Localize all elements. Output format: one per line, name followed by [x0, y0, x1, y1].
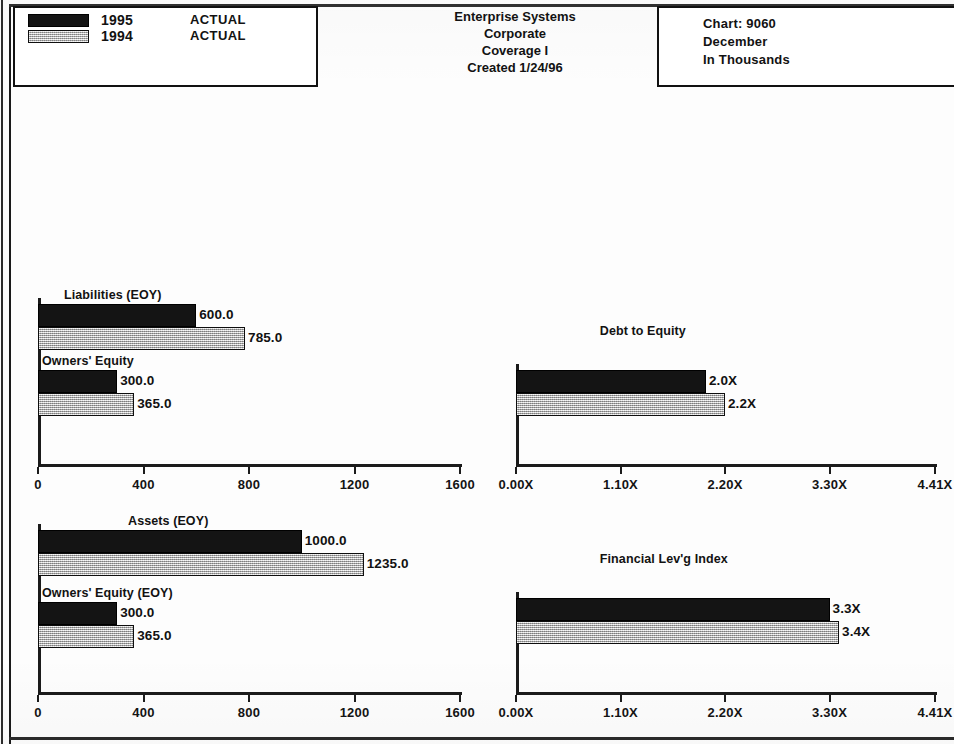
x-axis-tick-label: 1.10X	[603, 477, 638, 492]
x-axis-tick	[934, 695, 936, 702]
bar-value-label-1995-2: 300.0	[120, 605, 154, 620]
x-axis-tick-label: 1600	[445, 705, 475, 720]
x-axis-tick-label: 1.10X	[603, 705, 638, 720]
chart-info-box: Chart: 9060 December In Thousands	[657, 6, 954, 87]
x-axis-tick	[515, 695, 517, 702]
x-axis-tick	[248, 695, 250, 702]
bar-value-label-1995-1: 2.0X	[709, 373, 737, 388]
x-axis-tick	[515, 467, 517, 474]
report-title-line-2: Corporate	[380, 25, 650, 42]
bar-value-label-1994-1: 785.0	[248, 330, 282, 345]
chart-panel-financial-leverage: 0.00X1.10X2.20X3.30X4.41XFinancial Lev'g…	[490, 520, 954, 724]
x-axis-tick	[143, 467, 145, 474]
x-axis-tick-label: 0.00X	[499, 705, 534, 720]
legend-status-1994: ACTUAL	[190, 28, 246, 43]
x-axis-tick	[620, 467, 622, 474]
x-axis-tick	[354, 467, 356, 474]
x-axis-line	[516, 464, 937, 467]
bar-group-label: Owners' Equity	[42, 354, 134, 368]
bar-1994-1	[38, 327, 245, 350]
chart-number: Chart: 9060	[703, 16, 776, 31]
bar-value-label-1994-1: 3.4X	[842, 624, 870, 639]
legend-status-1995: ACTUAL	[190, 12, 246, 27]
x-axis-tick	[620, 695, 622, 702]
x-axis-tick	[459, 467, 461, 474]
chart-panel-liabilities-equity: 040080012001600Liabilities (EOY)600.0785…	[0, 296, 500, 496]
x-axis-tick	[37, 695, 39, 702]
chart-panel-assets-equity: 040080012001600Assets (EOY)1000.01235.0O…	[0, 520, 500, 724]
bar-1995-2	[38, 602, 117, 625]
x-axis-tick	[829, 467, 831, 474]
chart-title: Debt to Equity	[600, 324, 686, 338]
report-created-date: Created 1/24/96	[380, 59, 650, 76]
bar-1994-1	[516, 621, 839, 644]
bar-1995-1	[38, 530, 302, 553]
x-axis-tick-label: 3.30X	[812, 705, 847, 720]
x-axis-line	[38, 464, 462, 467]
bar-1994-2	[38, 625, 134, 648]
bar-1995-2	[38, 370, 117, 393]
x-axis-tick-label: 2.20X	[708, 705, 743, 720]
bar-value-label-1994-1: 1235.0	[367, 556, 409, 571]
x-axis-tick-label: 1600	[445, 477, 475, 492]
bar-group-label: Assets (EOY)	[128, 514, 208, 528]
bar-value-label-1995-1: 3.3X	[833, 601, 861, 616]
x-axis-tick	[724, 467, 726, 474]
x-axis-tick-label: 800	[238, 705, 260, 720]
x-axis-tick-label: 3.30X	[812, 477, 847, 492]
legend-entry-1995: 1995 ACTUAL	[15, 14, 316, 29]
x-axis-line	[516, 692, 937, 695]
x-axis-line	[38, 692, 462, 695]
x-axis-tick-label: 1200	[340, 705, 370, 720]
chart-period: December	[703, 34, 767, 49]
x-axis-tick-label: 1200	[340, 477, 370, 492]
bar-value-label-1994-2: 365.0	[137, 396, 171, 411]
bar-group-label: Liabilities (EOY)	[64, 288, 162, 302]
x-axis-tick	[934, 467, 936, 474]
bar-1994-1	[516, 393, 725, 416]
x-axis-tick-label: 800	[238, 477, 260, 492]
report-title-line-1: Enterprise Systems	[380, 8, 650, 25]
chart-units: In Thousands	[703, 52, 790, 67]
bar-value-label-1995-1: 1000.0	[305, 533, 347, 548]
x-axis-tick	[829, 695, 831, 702]
x-axis-tick-label: 4.41X	[918, 705, 953, 720]
legend-box: 1995 ACTUAL 1994 ACTUAL	[13, 6, 318, 87]
bar-value-label-1994-2: 365.0	[137, 628, 171, 643]
bar-1994-1	[38, 553, 364, 576]
x-axis-tick	[37, 467, 39, 474]
bar-value-label-1995-2: 300.0	[120, 373, 154, 388]
x-axis-tick-label: 400	[132, 477, 154, 492]
x-axis-tick	[354, 695, 356, 702]
legend-year-1995: 1995	[101, 12, 133, 28]
x-axis-tick-label: 0.00X	[499, 477, 534, 492]
chart-panel-debt-to-equity: 0.00X1.10X2.20X3.30X4.41XDebt to Equity2…	[490, 296, 954, 496]
legend-swatch-1995	[28, 14, 89, 27]
report-title-line-3: Coverage I	[380, 42, 650, 59]
x-axis-tick	[459, 695, 461, 702]
x-axis-tick-label: 4.41X	[918, 477, 953, 492]
x-axis-tick-label: 2.20X	[708, 477, 743, 492]
legend-entry-1994: 1994 ACTUAL	[15, 30, 316, 45]
x-axis-tick-label: 400	[132, 705, 154, 720]
bar-value-label-1995-1: 600.0	[199, 307, 233, 322]
bar-1995-1	[516, 598, 830, 621]
x-axis-tick	[248, 467, 250, 474]
report-page: 1995 ACTUAL 1994 ACTUAL Enterprise Syste…	[0, 0, 954, 744]
report-title-block: Enterprise Systems Corporate Coverage I …	[380, 8, 650, 76]
page-border-bottom	[9, 737, 954, 740]
bar-1994-2	[38, 393, 134, 416]
chart-title: Financial Lev'g Index	[600, 552, 728, 566]
bar-1995-1	[38, 304, 196, 327]
bar-group-label: Owners' Equity (EOY)	[42, 586, 173, 600]
bar-1995-1	[516, 370, 706, 393]
legend-year-1994: 1994	[101, 28, 133, 44]
bar-value-label-1994-1: 2.2X	[728, 396, 756, 411]
legend-swatch-1994	[28, 30, 89, 43]
x-axis-tick-label: 0	[34, 705, 41, 720]
x-axis-tick	[724, 695, 726, 702]
x-axis-tick-label: 0	[34, 477, 41, 492]
x-axis-tick	[143, 695, 145, 702]
